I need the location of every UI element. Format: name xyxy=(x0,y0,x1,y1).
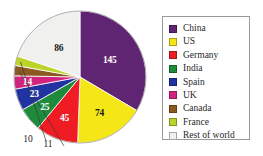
legend-label-canada: Canada xyxy=(183,103,212,114)
pie-value-label-uk: 14 xyxy=(23,77,33,87)
pie-value-label-canada: 11 xyxy=(43,139,52,149)
legend-item-rest-of-world: Rest of world xyxy=(169,129,249,142)
legend-swatch-uk xyxy=(169,91,177,99)
legend-item-france: France xyxy=(169,116,249,129)
pie-value-label-india: 25 xyxy=(40,102,50,112)
pie-value-label-rest-of-world: 86 xyxy=(54,43,64,53)
legend-item-us: US xyxy=(169,35,249,48)
legend-label-china: China xyxy=(183,23,206,34)
pie-value-label-china: 145 xyxy=(103,55,117,65)
legend-swatch-spain xyxy=(169,78,177,86)
legend-item-spain: Spain xyxy=(169,76,249,89)
pie-slices-group xyxy=(14,11,146,143)
pie-value-label-germany: 45 xyxy=(60,113,70,123)
legend-swatch-india xyxy=(169,65,177,73)
legend-item-china: China xyxy=(169,22,249,35)
pie-value-label-france: 10 xyxy=(23,134,33,144)
legend-label-us: US xyxy=(183,36,195,47)
legend-swatch-france xyxy=(169,118,177,126)
legend-item-germany: Germany xyxy=(169,49,249,62)
pie-chart-area: 1457445252314861110 xyxy=(0,0,160,156)
legend-swatch-canada xyxy=(169,105,177,113)
legend-label-uk: UK xyxy=(183,90,197,101)
pie-value-label-us: 74 xyxy=(95,108,105,118)
legend-box: China US Germany India Spain UK Canada xyxy=(162,16,250,140)
pie-chart-svg: 1457445252314861110 xyxy=(0,0,160,156)
legend-swatch-rest-of-world xyxy=(169,132,177,140)
legend-label-india: India xyxy=(183,63,203,74)
legend-label-rest-of-world: Rest of world xyxy=(183,130,235,141)
pie-value-label-spain: 23 xyxy=(30,89,40,99)
legend-swatch-us xyxy=(169,38,177,46)
legend-label-france: France xyxy=(183,117,209,128)
legend-swatch-germany xyxy=(169,51,177,59)
legend-item-uk: UK xyxy=(169,89,249,102)
legend-label-spain: Spain xyxy=(183,77,205,88)
legend-item-canada: Canada xyxy=(169,102,249,115)
legend-item-india: India xyxy=(169,62,249,75)
legend-label-germany: Germany xyxy=(183,50,218,61)
legend-swatch-china xyxy=(169,25,177,33)
pie-chart-figure: 1457445252314861110 China US Germany Ind… xyxy=(0,0,263,156)
